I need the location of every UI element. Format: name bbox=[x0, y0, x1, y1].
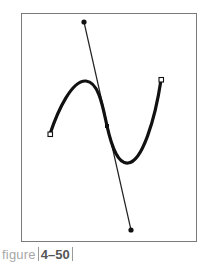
figure-caption: figure4–50 bbox=[2, 247, 75, 263]
top-handle-dot-icon[interactable] bbox=[81, 19, 86, 24]
caption-divider-end bbox=[72, 247, 73, 261]
bezier-drawing bbox=[0, 0, 215, 268]
caption-number: 4–50 bbox=[41, 247, 70, 262]
middle-anchor-point-icon[interactable] bbox=[105, 124, 109, 128]
right-anchor-square-icon[interactable] bbox=[159, 78, 164, 83]
left-anchor-square-icon[interactable] bbox=[48, 132, 53, 137]
bezier-curve bbox=[50, 80, 161, 163]
bottom-handle-dot-icon[interactable] bbox=[128, 227, 133, 232]
caption-word: figure bbox=[2, 247, 36, 262]
caption-divider bbox=[38, 247, 39, 261]
